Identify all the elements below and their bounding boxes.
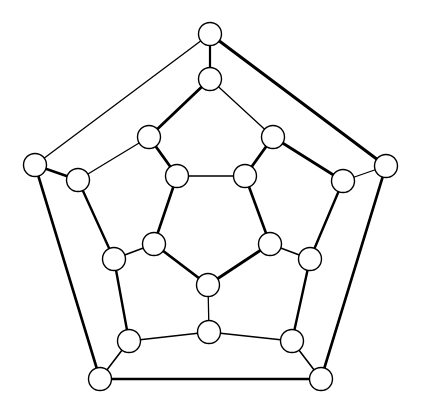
graph-node[interactable] <box>143 233 166 256</box>
dodecahedral-graph-figure <box>0 0 421 410</box>
graph-node[interactable] <box>67 169 90 192</box>
graph-node[interactable] <box>259 233 282 256</box>
graph-node[interactable] <box>332 170 355 193</box>
graph-node[interactable] <box>166 165 189 188</box>
graph-node[interactable] <box>198 321 221 344</box>
graph-node[interactable] <box>199 68 222 91</box>
graph-node[interactable] <box>234 165 257 188</box>
graph-node[interactable] <box>375 155 398 178</box>
graph-node[interactable] <box>197 274 220 297</box>
graph-node[interactable] <box>103 248 126 271</box>
graph-node[interactable] <box>299 248 322 271</box>
graph-node[interactable] <box>89 368 112 391</box>
graph-node[interactable] <box>281 330 304 353</box>
graph-node[interactable] <box>310 368 333 391</box>
graph-node[interactable] <box>24 154 47 177</box>
graph-node[interactable] <box>262 126 285 149</box>
graph-node[interactable] <box>199 23 222 46</box>
graph-node[interactable] <box>138 126 161 149</box>
graph-node[interactable] <box>118 330 141 353</box>
